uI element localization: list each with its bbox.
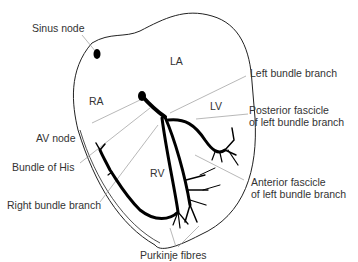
- conduction-pathways: [96, 96, 238, 228]
- label-right-bundle-branch: Right bundle branch: [7, 199, 101, 211]
- heart-diagram: [0, 0, 358, 262]
- label-anterior-fascicle-2: of left bundle branch: [251, 188, 346, 200]
- chamber-lv: LV: [210, 100, 222, 112]
- chamber-la: LA: [170, 55, 183, 67]
- label-posterior-fascicle-2: of left bundle branch: [249, 116, 344, 128]
- chamber-ra: RA: [89, 95, 104, 107]
- label-left-bundle-branch: Left bundle branch: [250, 67, 337, 79]
- label-purkinje-fibres: Purkinje fibres: [140, 249, 207, 261]
- label-av-node: AV node: [36, 132, 76, 144]
- sinus-node: [94, 49, 101, 59]
- label-bundle-of-his: Bundle of His: [12, 161, 74, 173]
- label-anterior-fascicle: Anterior fascicle: [251, 176, 326, 188]
- label-sinus-node: Sinus node: [32, 22, 85, 34]
- label-posterior-fascicle: Posterior fascicle: [249, 104, 329, 116]
- chamber-rv: RV: [150, 167, 164, 179]
